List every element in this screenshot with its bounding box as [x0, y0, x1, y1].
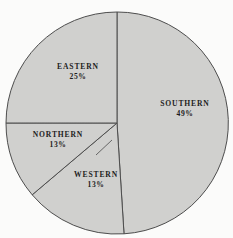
pie-chart-graphic — [0, 0, 233, 238]
pie-label-southern-percent: 49% — [146, 109, 224, 119]
pie-label-southern: SOUTHERN 49% — [146, 99, 224, 119]
pie-label-western-percent: 13% — [58, 180, 134, 190]
pie-label-northern-percent: 13% — [20, 140, 96, 150]
pie-slice-southern — [117, 12, 228, 234]
pie-label-western-name: WESTERN — [58, 170, 134, 180]
pie-label-northern: NORTHERN 13% — [20, 130, 96, 150]
pie-label-eastern-percent: 25% — [38, 72, 118, 82]
pie-chart-figure: EASTERN 25% SOUTHERN 49% NORTHERN 13% WE… — [0, 0, 233, 238]
pie-label-western: WESTERN 13% — [58, 170, 134, 190]
pie-label-eastern-name: EASTERN — [38, 62, 118, 72]
pie-label-northern-name: NORTHERN — [20, 130, 96, 140]
pie-label-eastern: EASTERN 25% — [38, 62, 118, 82]
pie-label-southern-name: SOUTHERN — [146, 99, 224, 109]
